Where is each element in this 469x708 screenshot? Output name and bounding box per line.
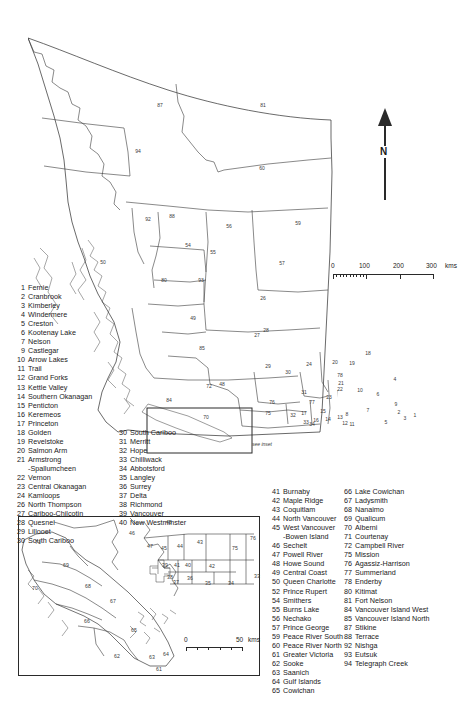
- map-region-number: 47: [147, 543, 153, 549]
- legend-item-number: 38: [116, 500, 127, 509]
- legend-item: 45West Vancouver: [268, 523, 343, 532]
- legend-item-number: 48: [268, 559, 280, 568]
- legend-item-label: Kimberley: [28, 301, 60, 310]
- legend-item-label: Alberni: [355, 523, 377, 532]
- legend-item-label: Prince George: [283, 623, 329, 632]
- map-region-number: 70: [203, 414, 209, 420]
- legend-item: 85Vancouver Island North: [340, 614, 430, 623]
- legend-item-label: Mission: [355, 550, 379, 559]
- legend-item-number: 16: [14, 410, 25, 419]
- scale-tick-200: [400, 274, 401, 279]
- map-region-number: 72: [206, 383, 212, 389]
- map-region-number: 76: [269, 399, 275, 405]
- legend-item-number: 85: [340, 614, 352, 623]
- legend-item-label: Keremeos: [28, 410, 61, 419]
- map-region-number: 77: [309, 399, 315, 405]
- legend-item-number: 30: [116, 428, 127, 437]
- legend-item-number: 81: [340, 596, 352, 605]
- legend-item: 65Cowichan: [268, 686, 343, 695]
- legend-item: 5Creston: [14, 319, 92, 328]
- legend-item: 76Agassiz-Harrison: [340, 559, 430, 568]
- legend-item-number: 88: [340, 632, 352, 641]
- legend-item-label: Vancouver Island North: [355, 614, 430, 623]
- region-line-24: [254, 372, 300, 404]
- legend-item-number: 49: [268, 568, 280, 577]
- legend-item-number: 22: [14, 473, 25, 482]
- region-line-27-south: [154, 376, 298, 380]
- legend-item: 33Chilliwack: [116, 455, 186, 464]
- legend-item-number: 92: [340, 641, 352, 650]
- inset-scale-bar: 0 50 kms: [186, 636, 258, 656]
- legend-item: 1Fernie: [14, 283, 92, 292]
- map-region-number: 30: [285, 369, 291, 375]
- map-region-number: 38: [167, 574, 173, 580]
- legend-item-number: 76: [340, 559, 352, 568]
- map-region-number: 45: [161, 545, 167, 551]
- map-region-number: 57: [279, 260, 285, 266]
- inset-scale-bar-line: [186, 647, 243, 648]
- legend-item-label: Penticton: [28, 401, 58, 410]
- legend-item: 67Ladysmith: [340, 496, 430, 505]
- legend-item-number: 50: [268, 577, 280, 586]
- legend-item: 9Castlegar: [14, 346, 92, 355]
- legend-item-number: 47: [268, 550, 280, 559]
- legend-item: 15Penticton: [14, 401, 92, 410]
- legend-item: -Spallumcheen: [14, 464, 92, 473]
- map-region-number: 35: [205, 580, 211, 586]
- legend-item-number: 46: [268, 541, 280, 550]
- legend-item-label: Grand Forks: [28, 373, 68, 382]
- legend-item-label: Arrow Lakes: [28, 355, 68, 364]
- map-region-number: 41: [174, 562, 180, 568]
- legend-item: 70Alberni: [340, 523, 430, 532]
- map-region-number: 29: [265, 363, 271, 369]
- legend-item-label: -Bowen Island: [283, 532, 329, 541]
- legend-item-label: Central Okanagan: [28, 482, 86, 491]
- legend-item-number: 54: [268, 596, 280, 605]
- inset-scale-label-0: 0: [184, 636, 188, 644]
- map-region-number: 50: [100, 259, 106, 265]
- legend-item: 16Keremeos: [14, 410, 92, 419]
- legend-item: 14Southern Okanagan: [14, 392, 92, 401]
- legend-item: 68Nanaimo: [340, 505, 430, 514]
- legend-item: 93Eutsuk: [340, 650, 430, 659]
- legend-item: 21Armstrong: [14, 455, 92, 464]
- map-region-number: 42: [209, 563, 215, 569]
- legend-item-label: Cowichan: [283, 686, 315, 695]
- legend-item: 47Powell River: [268, 550, 343, 559]
- map-page: see inset 878194609288565954555780932650…: [0, 0, 469, 708]
- map-region-number: 14: [325, 416, 331, 422]
- map-region-number: 56: [226, 223, 232, 229]
- scale-label-200: 200: [393, 262, 404, 270]
- map-region-number: 36: [187, 575, 193, 581]
- legend-item-number: 59: [268, 632, 280, 641]
- scale-tick-300: [433, 274, 434, 279]
- map-region-number: 46: [129, 530, 135, 536]
- region-line-27: [162, 332, 206, 334]
- legend-item-label: Salmon Arm: [28, 446, 67, 455]
- map-region-number: 60: [259, 165, 265, 171]
- map-region-number: 10: [357, 387, 363, 393]
- region-line-26: [204, 304, 320, 332]
- legend-item-number: 72: [340, 541, 352, 550]
- legend-item-label: West Vancouver: [283, 523, 335, 532]
- legend-item: 41Burnaby: [268, 487, 343, 496]
- map-region-number: 85: [199, 345, 205, 351]
- legend-item-number: 1: [14, 283, 25, 292]
- map-region-number: 7: [367, 407, 370, 413]
- legend-item: 12Grand Forks: [14, 373, 92, 382]
- inset-scale-label-50: 50: [236, 636, 243, 644]
- legend-item-label: Eutsuk: [355, 650, 377, 659]
- legend-item-label: Windermere: [28, 310, 67, 319]
- legend-item-label: Surrey: [130, 482, 151, 491]
- legend-item-number: 77: [340, 568, 352, 577]
- legend-item-number: 42: [268, 496, 280, 505]
- legend-item-label: Golden: [28, 428, 51, 437]
- map-region-number: 8: [346, 411, 349, 417]
- legend-item-number: 23: [14, 482, 25, 491]
- map-region-number: 63: [149, 654, 155, 660]
- legend-item-label: Southern Okanagan: [28, 392, 92, 401]
- map-region-number: 48: [219, 381, 225, 387]
- region-line-93: [148, 280, 204, 306]
- legend-item: 92Nishga: [340, 641, 430, 650]
- legend-item-number: 33: [116, 455, 127, 464]
